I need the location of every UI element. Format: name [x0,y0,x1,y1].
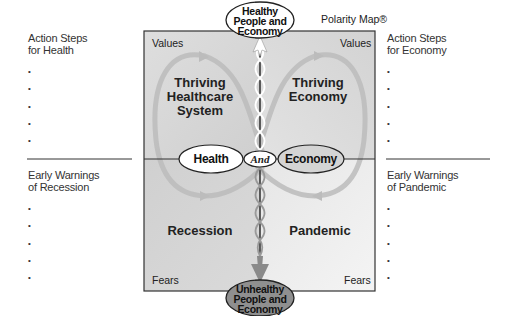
warnings-pandemic-panel: Early Warnings of Pandemic [387,169,458,285]
action-steps-economy-panel: Action Steps for Economy [387,32,447,148]
list-item [387,268,458,285]
fears-label-left: Fears [152,274,179,286]
quadrant-upper-left-label: Thriving Healthcare System [160,76,240,118]
values-label-left: Values [152,37,183,49]
list-item [28,114,87,131]
list-item [28,268,99,285]
list-item [28,131,87,148]
list-item [387,234,458,251]
top-goal-text: Healthy People and Economy [226,6,294,36]
list-item [28,234,99,251]
list-item [28,79,87,96]
fears-label-right: Fears [344,274,371,286]
values-label-right: Values [340,37,371,49]
and-connector-label: And [246,152,274,166]
warnings-recession-title: Early Warnings of Recession [28,169,99,193]
polarity-map-trademark: Polarity Map® [321,13,387,25]
quadrant-lower-left-label: Recession [160,224,240,238]
warnings-recession-panel: Early Warnings of Recession [28,169,99,285]
bottom-fear-text: Unhealthy People and Economy [226,284,294,314]
list-item [387,114,447,131]
list-item [28,97,87,114]
action-steps-economy-list [387,62,447,148]
list-item [28,251,99,268]
action-steps-health-title: Action Steps for Health [28,32,87,56]
warnings-recession-list [28,199,99,285]
list-item [28,62,87,79]
list-item [28,216,99,233]
list-item [387,199,458,216]
action-steps-health-panel: Action Steps for Health [28,32,87,148]
list-item [387,131,447,148]
list-item [387,79,447,96]
quadrant-upper-right-label: Thriving Economy [278,76,358,104]
list-item [28,199,99,216]
action-steps-economy-title: Action Steps for Economy [387,32,447,56]
list-item [387,62,447,79]
quadrant-lower-right-label: Pandemic [280,224,360,238]
list-item [387,251,458,268]
economy-pole-label: Economy [278,152,344,166]
warnings-pandemic-title: Early Warnings of Pandemic [387,169,458,193]
list-item [387,97,447,114]
list-item [387,216,458,233]
health-pole-label: Health [181,152,241,166]
warnings-pandemic-list [387,199,458,285]
action-steps-health-list [28,62,87,148]
